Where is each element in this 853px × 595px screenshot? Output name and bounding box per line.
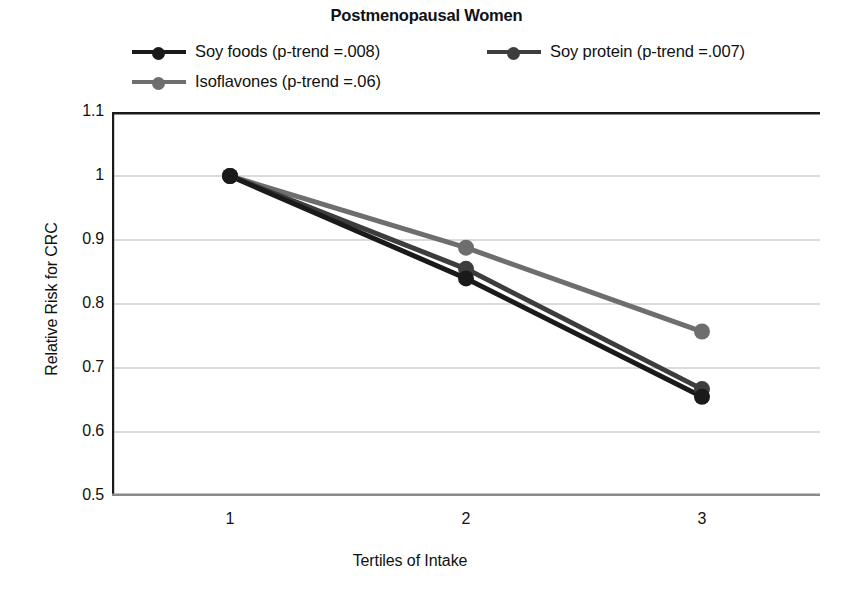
x-axis-tick-label: 1 — [200, 510, 260, 528]
gridlines — [112, 176, 820, 432]
chart-legend: Soy foods (p-trend =.008) Soy protein (p… — [112, 40, 812, 102]
legend-item-isoflavones[interactable]: Isoflavones (p-trend =.06) — [132, 72, 381, 91]
data-point-marker — [694, 324, 710, 340]
y-axis-tick-label: 0.8 — [48, 294, 104, 312]
data-point-marker — [458, 240, 474, 256]
data-point-marker — [694, 389, 710, 405]
legend-marker-icon — [132, 43, 186, 61]
legend-item-soy-protein[interactable]: Soy protein (p-trend =.007) — [487, 42, 745, 61]
y-axis-tick-label: 0.7 — [48, 358, 104, 376]
legend-label-isoflavones: Isoflavones (p-trend =.06) — [195, 72, 381, 91]
y-axis-tick-label: 0.9 — [48, 230, 104, 248]
data-point-marker — [222, 168, 238, 184]
legend-label-soy-protein: Soy protein (p-trend =.007) — [550, 42, 745, 61]
chart-figure: Postmenopausal Women Soy foods (p-trend … — [0, 0, 853, 595]
y-axis-tick-label: 0.5 — [48, 486, 104, 504]
legend-marker-icon — [132, 73, 186, 91]
plot-area — [112, 112, 820, 496]
legend-marker-icon — [487, 43, 541, 61]
x-axis-title: Tertiles of Intake — [100, 552, 720, 570]
y-axis-tick-label: 1.1 — [48, 102, 104, 120]
x-axis-tick-label: 2 — [436, 510, 496, 528]
legend-item-soy-foods[interactable]: Soy foods (p-trend =.008) — [132, 42, 380, 61]
y-axis-tick-label: 0.6 — [48, 422, 104, 440]
legend-label-soy-foods: Soy foods (p-trend =.008) — [195, 42, 380, 61]
data-point-marker — [458, 270, 474, 286]
plot-svg — [112, 112, 820, 496]
chart-title: Postmenopausal Women — [0, 6, 853, 25]
y-axis-tick-label: 1 — [48, 166, 104, 184]
x-axis-tick-label: 3 — [672, 510, 732, 528]
